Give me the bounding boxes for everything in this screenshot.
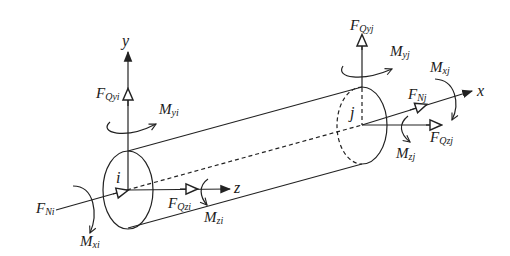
- cylinder-centerline: [127, 125, 362, 190]
- mzj-moment: [401, 116, 410, 142]
- fqzi-label: FQzi: [167, 195, 191, 212]
- mzi-label: Mzi: [203, 209, 223, 226]
- fqzj-label: FQzj: [429, 129, 453, 146]
- fqyj-label: FQyj: [349, 17, 374, 34]
- fqyi-label: FQyi: [95, 85, 120, 102]
- fnj-label: FNj: [407, 86, 427, 103]
- beam-element-diagram: y z x i j FQyi Myi FNi Mxi FQzi Mzi FQyj…: [0, 0, 510, 256]
- z-axis-label: z: [233, 179, 241, 196]
- myi-moment: [107, 122, 156, 133]
- mxi-moment: [73, 186, 94, 233]
- mxi-label: Mxi: [79, 233, 100, 250]
- mxj-label: Mxj: [429, 59, 450, 76]
- node-i-label: i: [116, 169, 120, 186]
- x-axis-label: x: [476, 82, 484, 99]
- myj-label: Myj: [389, 43, 410, 60]
- mzi-moment: [201, 179, 208, 205]
- mzj-label: Mzj: [395, 145, 415, 162]
- cylinder-bottom-edge: [128, 164, 362, 228]
- cylinder-top-edge: [128, 87, 362, 151]
- fni-arrow: [113, 193, 117, 194]
- fni-label: FNi: [35, 200, 55, 217]
- z-axis: [128, 189, 230, 190]
- myi-label: Myi: [158, 101, 179, 118]
- y-axis-label: y: [120, 32, 130, 50]
- myj-moment: [342, 66, 392, 77]
- node-j-label: j: [348, 104, 355, 122]
